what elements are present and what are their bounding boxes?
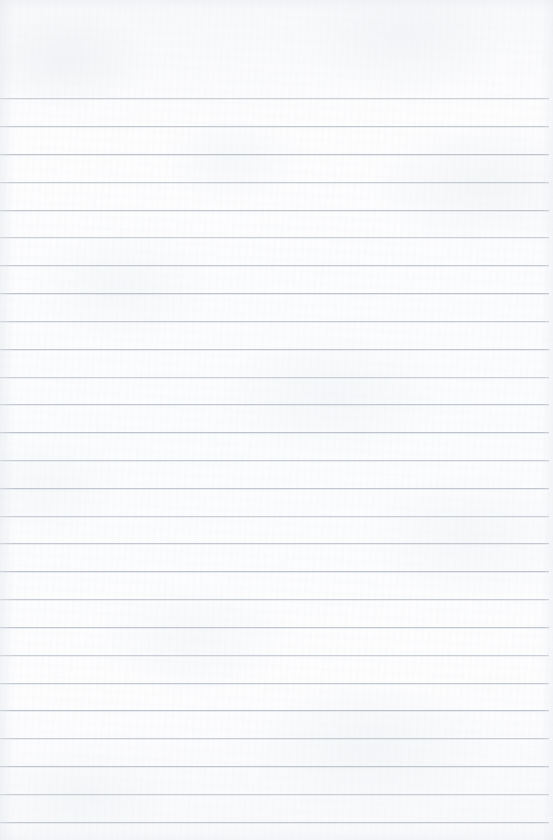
notebook-page: [0, 0, 553, 840]
writing-area[interactable]: [0, 98, 549, 830]
